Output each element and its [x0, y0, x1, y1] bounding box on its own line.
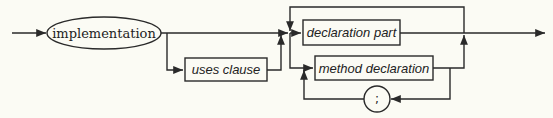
node-declaration-part-label: declaration part [307, 25, 398, 40]
node-uses-clause-label: uses clause [192, 62, 261, 77]
uses-branch-line [167, 33, 183, 70]
uses-return-line [267, 35, 281, 70]
method-to-exit-line [433, 35, 464, 68]
node-method-declaration-label: method declaration [319, 61, 430, 76]
syntax-diagram: implementation uses clause declaration p… [0, 0, 553, 118]
node-uses-clause: uses clause [185, 58, 267, 81]
node-semicolon: ; [364, 86, 390, 112]
node-method-declaration: method declaration [315, 56, 433, 80]
node-implementation-label: implementation [52, 26, 156, 41]
node-declaration-part: declaration part [303, 20, 400, 45]
node-semicolon-label: ; [375, 92, 379, 106]
node-implementation: implementation [47, 17, 161, 49]
